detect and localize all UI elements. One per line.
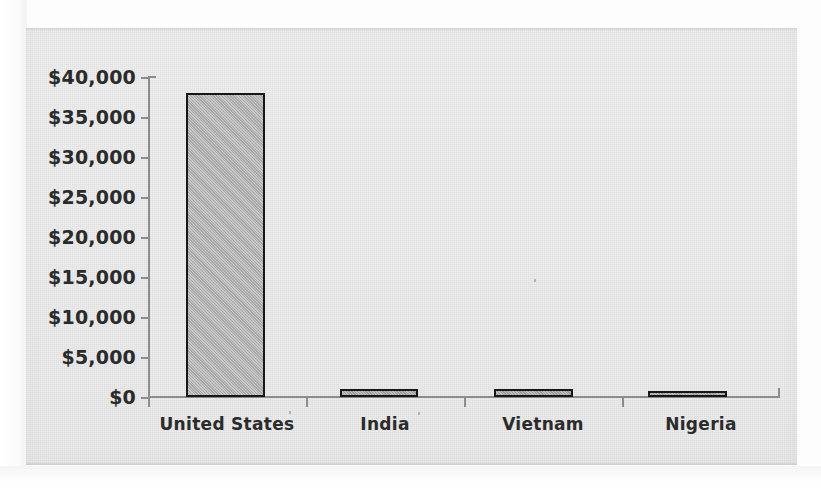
bar-nigeria[interactable] [648,391,727,397]
y-tick-label-5000: $5,000 [61,346,136,368]
y-tick-35000 [141,117,149,119]
y-tick-10000 [141,317,149,319]
y-tick-40000 [141,77,149,79]
scan-edge-left [0,0,27,488]
y-tick-30000 [141,157,149,159]
bar-united-states[interactable] [186,93,265,397]
y-tick-label-20000: $20,000 [48,226,136,248]
plot-area: $40,000 $35,000 $30,000 $25,000 $20,000 … [148,77,780,397]
x-label-nigeria: Nigeria [622,414,780,434]
y-tick-15000 [141,277,149,279]
bar-india[interactable] [340,389,418,397]
y-tick-label-30000: $30,000 [48,146,136,168]
x-tick-2 [464,397,466,407]
x-tick-3 [622,397,624,407]
y-tick-label-10000: $10,000 [48,306,136,328]
y-tick-label-15000: $15,000 [48,266,136,288]
x-label-vietnam: Vietnam [464,414,622,434]
x-label-united-states: United States [148,414,306,434]
y-tick-20000 [141,237,149,239]
x-label-india: India [306,414,464,434]
x-tick-1 [306,397,308,407]
y-tick-label-25000: $25,000 [48,186,136,208]
y-tick-25000 [141,197,149,199]
y-tick-label-0: $0 [109,386,136,408]
x-tick-start [148,397,150,407]
y-tick-label-35000: $35,000 [48,106,136,128]
panel-border-top [26,28,797,30]
panel-border-bottom [26,463,797,465]
bar-vietnam[interactable] [494,389,573,397]
y-tick-5000 [141,357,149,359]
bar-chart: $40,000 $35,000 $30,000 $25,000 $20,000 … [0,0,821,488]
scan-edge-bottom [0,466,821,488]
y-tick-label-40000: $40,000 [48,66,136,88]
